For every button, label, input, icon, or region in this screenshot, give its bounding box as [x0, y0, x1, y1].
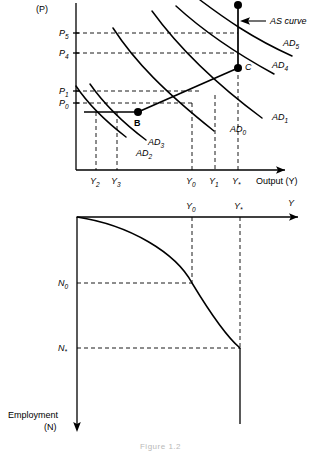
as-top-dot	[234, 1, 242, 9]
ad-label-AD2: AD2	[135, 148, 153, 160]
output-label-Y1: Y1	[209, 176, 219, 188]
ad-label-AD0: AD0	[229, 124, 247, 136]
output-label-Y2: Y2	[90, 176, 100, 188]
figure-caption: Figure 1.2	[0, 442, 321, 451]
upper-y-axis-label: (P)	[36, 4, 48, 14]
production-function-curve	[77, 217, 240, 348]
lower-y-axis-label-line2: (N)	[44, 422, 57, 432]
lower-panel: Y0 Y* Y N0 N* Employment (N)	[8, 198, 298, 432]
upper-panel: (P) AS curve P5 P4 P1 P0 Y2 Y3 Y0 Y1 Y* …	[36, 0, 307, 188]
point-label-B: B	[134, 118, 141, 128]
point-label-C: C	[245, 62, 252, 72]
price-label-P4: P4	[59, 48, 69, 60]
ad-label-AD4: AD4	[271, 60, 289, 72]
output-label-Ystar: Y*	[232, 176, 241, 188]
upper-x-axis-label: Output (Y)	[256, 176, 298, 186]
price-label-P5: P5	[59, 28, 69, 40]
lower-output-label-Ystar: Y*	[234, 201, 243, 213]
output-label-Y3: Y3	[111, 176, 121, 188]
figure-canvas: (P) AS curve P5 P4 P1 P0 Y2 Y3 Y0 Y1 Y* …	[0, 0, 321, 451]
ad-curve-AD5	[200, 0, 292, 56]
ad-curve-AD0	[113, 28, 214, 131]
point-C-dot	[234, 64, 242, 72]
lower-output-label-Y0: Y0	[186, 201, 196, 213]
lower-y-axis-label-line1: Employment	[8, 410, 59, 420]
employment-label-N0: N0	[58, 278, 69, 290]
figure-root: (P) AS curve P5 P4 P1 P0 Y2 Y3 Y0 Y1 Y* …	[0, 0, 321, 451]
point-B-dot	[134, 108, 142, 116]
ad-label-AD1: AD1	[271, 112, 289, 124]
output-label-Y0: Y0	[186, 176, 196, 188]
lower-x-axis-label: Y	[288, 198, 295, 208]
employment-label-Nstar: N*	[58, 343, 68, 355]
price-label-P1: P1	[59, 86, 69, 98]
ad-label-AD5: AD5	[282, 38, 300, 50]
ad-label-AD3: AD3	[147, 137, 165, 149]
as-curve-label: AS curve	[269, 16, 307, 26]
as-curve-rising-segment	[138, 68, 238, 112]
price-label-P0: P0	[59, 98, 69, 110]
